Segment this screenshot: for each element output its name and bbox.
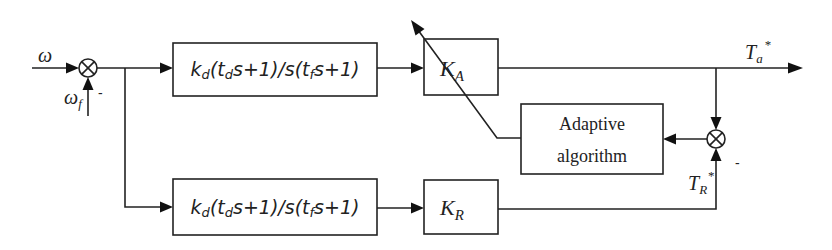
output-a-label: Ta* <box>745 37 771 66</box>
summing-junction-input <box>79 59 97 77</box>
controller-to-kr-wire <box>377 203 424 214</box>
gain-block-ka: KA <box>424 39 498 95</box>
controller-block-top: kd(tds+1)/s(tfs+1) <box>173 43 377 96</box>
feedback-minus-sign: - <box>98 85 103 101</box>
adaptive-algorithm-block: Adaptive algorithm <box>521 104 663 174</box>
controller-to-ka-wire <box>377 63 424 74</box>
controller-bottom-transfer-function: kd(tds+1)/s(tfs+1) <box>191 196 360 220</box>
error-wire-bottom <box>125 68 173 213</box>
gain-block-kr: KR <box>424 180 498 234</box>
output-r-minus-sign: - <box>735 155 740 171</box>
summing-junction-adaptive <box>707 130 725 148</box>
junction-to-adaptive-wire <box>663 134 707 145</box>
output-r-label: TR* <box>688 168 715 197</box>
block-diagram: ω ωf - kd(tds+1)/s(tfs+1) KA Ta <box>0 0 832 250</box>
adaptive-label-line2: algorithm <box>557 146 627 166</box>
input-reference-label: ω <box>38 44 52 66</box>
feedback-input-wire <box>83 77 94 116</box>
controller-block-bottom: kd(tds+1)/s(tfs+1) <box>173 179 377 235</box>
feedback-input-label: ωf <box>64 86 84 111</box>
controller-top-transfer-function: kd(tds+1)/s(tfs+1) <box>191 58 360 82</box>
adaptive-label-line1: Adaptive <box>559 114 625 134</box>
output-a-feedback-wire <box>711 68 722 130</box>
error-wire-top <box>97 63 173 74</box>
